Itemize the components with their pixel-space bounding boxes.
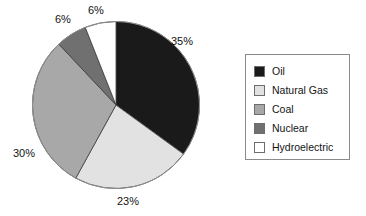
legend-swatch-natural-gas	[254, 85, 265, 96]
chart-legend: Oil Natural Gas Coal Nuclear Hydroelectr…	[245, 54, 350, 160]
slice-label-oil: 35%	[171, 35, 193, 47]
legend-swatch-hydroelectric	[254, 142, 265, 153]
pie-plot-area: 35% 23% 30% 6% 6%	[0, 0, 232, 216]
pie-chart-figure: 35% 23% 30% 6% 6% Oil Natural Gas Coal N…	[0, 0, 366, 216]
legend-item-coal: Coal	[254, 100, 343, 118]
legend-label-oil: Oil	[272, 65, 285, 77]
legend-swatch-oil	[254, 66, 265, 77]
pie-svg	[0, 0, 232, 216]
slice-label-coal: 30%	[13, 147, 35, 159]
legend-swatch-coal	[254, 104, 265, 115]
slice-label-hydroelectric: 6%	[88, 4, 104, 16]
slice-label-natural-gas: 23%	[117, 195, 139, 207]
legend-label-natural-gas: Natural Gas	[272, 84, 328, 96]
legend-item-nuclear: Nuclear	[254, 119, 343, 137]
legend-item-oil: Oil	[254, 62, 343, 80]
legend-swatch-nuclear	[254, 123, 265, 134]
slice-label-nuclear: 6%	[55, 13, 71, 25]
legend-item-natural-gas: Natural Gas	[254, 81, 343, 99]
legend-label-hydroelectric: Hydroelectric	[272, 141, 333, 153]
legend-item-hydroelectric: Hydroelectric	[254, 138, 343, 156]
legend-label-coal: Coal	[272, 103, 294, 115]
legend-label-nuclear: Nuclear	[272, 122, 308, 134]
